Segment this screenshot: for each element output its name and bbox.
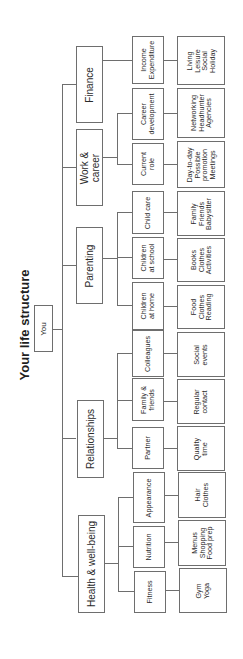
detail-label: Networking Headhunter Agencies (190, 94, 213, 132)
connector (103, 258, 117, 259)
item-label: Children at home (140, 293, 155, 320)
connector (166, 590, 179, 591)
item-label: Income Expenditure (140, 41, 155, 79)
category-label: Work & career (79, 151, 100, 184)
connector (103, 60, 132, 61)
connector (62, 84, 76, 85)
connector (117, 448, 132, 449)
item-nutrition: Nutrition (133, 526, 165, 568)
detail-partner: Quality time (177, 426, 225, 471)
detail-label: Gym Yoga (195, 582, 210, 598)
detail-label: Family Friends Babysitter (190, 198, 213, 230)
detail-family-friends: Regular contact (177, 379, 225, 424)
connector (105, 563, 118, 564)
item-partner: Partner (132, 427, 164, 469)
connector (118, 497, 134, 498)
connector (118, 546, 134, 547)
connector (117, 400, 132, 401)
connector (103, 157, 117, 158)
detail-income-expenditure: Living Leisure Social Holiday (177, 36, 225, 85)
category-finance: Finance (76, 46, 103, 123)
item-children-at-home: Children at home (132, 282, 164, 330)
detail-child-care: Family Friends Babysitter (177, 191, 225, 236)
connector (117, 164, 132, 165)
detail-label: Menus Shopping Food prep (191, 527, 214, 560)
sub-spine (117, 212, 118, 306)
item-child-care: Child care (132, 191, 164, 234)
detail-label: Social events (193, 344, 208, 365)
item-label: Appearance (145, 478, 153, 517)
item-label: Fitness (146, 580, 154, 603)
connector (62, 265, 76, 266)
connector (165, 495, 178, 496)
detail-label: Living Leisure Social Holiday (186, 49, 216, 73)
item-label: Partner (144, 436, 152, 460)
category-label: Health & well-being (86, 521, 97, 607)
detail-label: Regular contact (193, 389, 208, 414)
connector (164, 401, 177, 402)
connector (164, 113, 177, 114)
connector (117, 212, 132, 213)
item-label: Colleagues (144, 336, 152, 372)
detail-label: Quality time (193, 437, 208, 459)
category-health-wellbeing: Health & well-being (78, 515, 105, 613)
root-node-you: You (34, 305, 53, 352)
main-spine (62, 84, 63, 577)
connector (164, 448, 177, 449)
category-label: Relationships (85, 409, 96, 469)
item-label: Children at school (140, 244, 155, 273)
diagram-title: Your life structure (17, 269, 32, 380)
connector (62, 167, 76, 168)
detail-appearance: Hair Clothes (178, 472, 226, 518)
item-colleagues: Colleagues (132, 330, 164, 377)
item-career-development: Career development (132, 88, 164, 140)
category-work-career: Work & career (76, 129, 103, 206)
sub-spine (117, 353, 118, 449)
item-income-expenditure: Income Expenditure (132, 36, 164, 84)
detail-label: Food Clothes Reading (190, 294, 213, 321)
connector (62, 576, 78, 577)
connector (117, 353, 132, 354)
detail-career-development: Networking Headhunter Agencies (177, 88, 225, 138)
detail-nutrition: Menus Shopping Food prep (178, 520, 226, 566)
detail-fitness: Gym Yoga (179, 568, 227, 613)
connector (165, 542, 178, 543)
connector (164, 353, 177, 354)
connector (164, 259, 177, 260)
connector (164, 164, 177, 165)
detail-current-role: Day-to-day Possible promotion Meetings (177, 141, 225, 188)
category-parenting: Parenting (76, 227, 103, 304)
connector (164, 60, 177, 61)
detail-colleagues: Social events (177, 332, 225, 377)
connector (164, 212, 177, 213)
connector (104, 438, 117, 439)
item-label: Current role (140, 152, 155, 176)
detail-label: Hair Clothes (194, 483, 209, 507)
detail-children-at-school: Books Clothes Activities (177, 238, 225, 282)
detail-label: Day-to-day Possible promotion Meetings (186, 147, 216, 182)
connector (62, 438, 76, 439)
connector (117, 257, 132, 258)
item-label: Nutrition (145, 534, 153, 561)
category-label: Finance (84, 67, 95, 103)
item-label: Career development (140, 93, 155, 134)
sub-spine (117, 113, 118, 164)
item-appearance: Appearance (133, 472, 165, 523)
connector (164, 306, 177, 307)
item-label: Child care (144, 196, 152, 228)
connector (117, 113, 132, 114)
connector (117, 305, 132, 306)
connector (118, 591, 134, 592)
item-children-at-school: Children at school (132, 237, 164, 279)
item-current-role: Current role (132, 143, 164, 185)
detail-children-at-home: Food Clothes Reading (177, 285, 225, 329)
item-fitness: Fitness (134, 571, 166, 613)
category-label: Parenting (84, 244, 95, 287)
detail-label: Books Clothes Activities (190, 246, 213, 274)
category-relationships: Relationships (77, 400, 104, 478)
sub-spine (118, 497, 119, 592)
item-family-friends: Family & friends (132, 378, 164, 421)
item-label: Family & friends (140, 386, 155, 414)
root-label: You (39, 322, 47, 336)
